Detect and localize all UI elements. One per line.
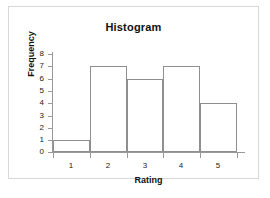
histogram-bar-3 bbox=[127, 79, 163, 153]
x-axis-line bbox=[52, 152, 245, 153]
chart-title: Histogram bbox=[9, 21, 258, 33]
x-tick-label-4: 4 bbox=[169, 161, 193, 170]
x-tick-boundary-0 bbox=[53, 153, 54, 158]
x-tick-boundary-2 bbox=[127, 153, 128, 158]
y-tick-label-0-wrap: 0 bbox=[32, 148, 44, 156]
y-tick-label-1: 1 bbox=[34, 136, 44, 144]
y-tick-label-4-wrap: 4 bbox=[32, 99, 44, 107]
histogram-bar-4 bbox=[163, 66, 200, 152]
x-tick-boundary-3 bbox=[163, 153, 164, 158]
y-tick-label-3-wrap: 3 bbox=[32, 112, 44, 120]
histogram-bar-5 bbox=[200, 103, 237, 152]
x-tick-boundary-1 bbox=[90, 153, 91, 158]
y-tick-label-3: 3 bbox=[34, 112, 44, 120]
x-tick-label-1: 1 bbox=[59, 161, 83, 170]
x-tick-boundary-4 bbox=[200, 153, 201, 158]
plot-area bbox=[53, 54, 237, 152]
x-tick-boundary-5 bbox=[237, 153, 238, 158]
y-tick-label-4: 4 bbox=[34, 99, 44, 107]
x-tick-label-3: 3 bbox=[133, 161, 157, 170]
chart-frame: Histogram 8 7 6 5 4 3 2 1 0 1 2 3 4 5 Fr… bbox=[8, 6, 259, 179]
x-tick-label-5: 5 bbox=[206, 161, 230, 170]
histogram-bar-1 bbox=[53, 140, 90, 152]
y-tick-label-0: 0 bbox=[34, 148, 44, 156]
y-tick-label-2-wrap: 2 bbox=[32, 124, 44, 132]
y-tick-label-2: 2 bbox=[34, 124, 44, 132]
y-axis-title: Frequency bbox=[26, 9, 36, 99]
histogram-bar-2 bbox=[90, 66, 127, 152]
x-tick-label-2: 2 bbox=[96, 161, 120, 170]
x-axis-title: Rating bbox=[52, 175, 245, 185]
y-tick-label-1-wrap: 1 bbox=[32, 136, 44, 144]
